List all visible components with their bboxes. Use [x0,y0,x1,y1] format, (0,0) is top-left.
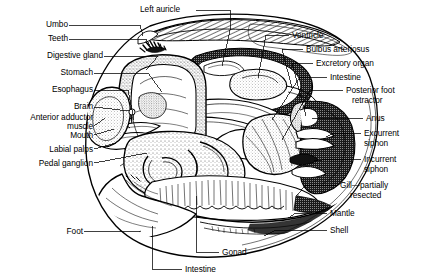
label-foot: Foot [0,227,83,236]
label-incurrent-siphon-line1: Incurrent [364,155,396,164]
leader-umbo [69,25,143,36]
label-excretory-organ: Excretory organ [316,59,374,68]
label-excurrent-siphon-line1: Excurrent [364,129,399,138]
label-shell: Shell [330,226,348,235]
label-teeth: Teeth [0,34,68,43]
label-mouth: Mouth [0,131,93,140]
label-mantle: Mantle [330,209,355,218]
label-posterior-foot-retractor-line1: Posterior foot [346,86,395,95]
label-anus: Anus [366,114,385,123]
label-posterior-foot-retractor-line2: retractor [352,96,382,105]
label-digestive-gland: Digestive gland [0,51,103,60]
label-incurrent-siphon-line2: siphon [364,165,388,174]
label-bulbus-arteriosus: Bulbus arteriosus [306,45,369,54]
label-stomach: Stomach [0,68,93,77]
label-left-auricle: Left auricle [140,5,180,14]
figure-canvas: Umbo Teeth Digestive gland Stomach Esoph… [0,0,423,280]
label-ventricle: Ventricle [292,31,323,40]
label-pedal-ganglion: Pedal ganglion [0,159,93,168]
label-umbo: Umbo [0,20,68,29]
label-gill-line1: Gill—partially [340,181,388,190]
label-gill-line2: resected [350,191,381,200]
label-esophagus: Esophagus [0,85,93,94]
label-excurrent-siphon-line2: siphon [364,139,388,148]
label-labial-palps: Labial palps [0,145,93,154]
label-gonad: Gonad [222,248,247,257]
label-intestine-bottom: Intestine [185,265,216,274]
label-intestine-right: Intestine [330,73,361,82]
label-brain: Brain [0,102,93,111]
